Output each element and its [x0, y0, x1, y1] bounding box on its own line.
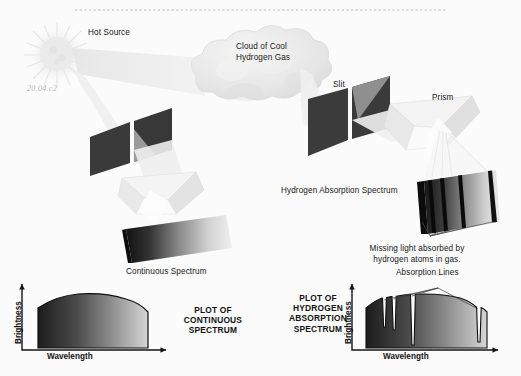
figure-id-label: 20.04.c2: [27, 84, 57, 93]
left-plot-x-axis-label: Wavelength: [47, 352, 93, 361]
x-axis-arrow: [161, 347, 167, 353]
label-hydrogen-absorption-spectrum: Hydrogen Absorption Spectrum: [281, 186, 398, 197]
label-cloud-of-cool-hydrogen-gas: Cloud of Cool Hydrogen Gas: [236, 42, 290, 63]
label-prism: Prism: [432, 93, 453, 104]
continuous-spectrum-curve: [38, 294, 148, 348]
label-continuous-spectrum: Continuous Spectrum: [126, 267, 207, 278]
continuous-spectrum-band: [122, 215, 232, 263]
label-absorption-lines: Absorption Lines: [396, 268, 459, 279]
label-hot-source: Hot Source: [88, 28, 130, 39]
right-plot-caption: PLOT OF HYDROGEN ABSORPTION SPECTRUM: [286, 293, 350, 334]
figure-canvas: 20.04.c2 Hot Source Cloud of Cool Hydrog…: [0, 0, 521, 376]
x-axis-arrow-right: [493, 347, 499, 353]
y-axis-arrow: [19, 284, 25, 290]
plot-continuous-spectrum: [19, 284, 166, 353]
left-plot-caption: PLOT OF CONTINUOUS SPECTRUM: [170, 305, 256, 336]
label-slit: Slit: [333, 80, 345, 91]
left-prism: [118, 172, 204, 226]
left-plot-y-axis-label: Brightness: [14, 301, 23, 344]
y-axis-arrow-right: [349, 284, 355, 290]
plot-hydrogen-absorption-spectrum: [349, 284, 498, 353]
absorption-spectrum-curve: [366, 294, 487, 348]
label-missing-light: Missing light absorbed by hydrogen atoms…: [322, 244, 512, 265]
right-plot-x-axis-label: Wavelength: [383, 352, 429, 361]
